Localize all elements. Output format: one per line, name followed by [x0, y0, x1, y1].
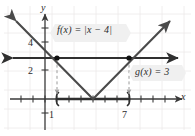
- graph-canvas: [0, 0, 195, 136]
- y-axis: [42, 14, 49, 130]
- figure-container: f(x) = |x − 4| g(x) = 3 y x 4 2 1 7: [0, 0, 195, 136]
